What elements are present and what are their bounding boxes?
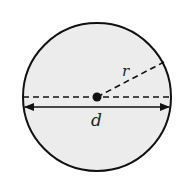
center-point — [93, 93, 102, 102]
diameter-label: d — [91, 110, 102, 130]
circle-diagram: r d — [0, 0, 186, 182]
radius-label: r — [122, 62, 130, 80]
